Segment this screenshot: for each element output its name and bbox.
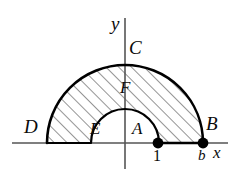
figure-canvas: y x C F D B E A 1 b (0, 0, 240, 176)
x-axis-label: x (213, 144, 221, 161)
tick-label-b: b (198, 148, 206, 163)
y-axis-label: y (111, 14, 119, 33)
outer-right-label-B: B (206, 114, 218, 133)
inner-left-label-E: E (90, 120, 100, 137)
inner-right-label-A: A (132, 120, 142, 137)
inner-top-label-F: F (120, 79, 130, 96)
tick-label-one: 1 (153, 148, 161, 164)
outer-top-label-C: C (129, 38, 142, 57)
outer-left-label-D: D (24, 117, 38, 136)
